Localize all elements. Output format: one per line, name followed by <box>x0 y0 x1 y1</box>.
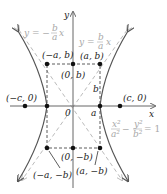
asymptote-label-positive: y = b a x <box>78 32 111 51</box>
point-neg-a-neg-b <box>45 146 50 151</box>
svg-text:a: a <box>98 41 103 51</box>
svg-text:x: x <box>106 37 111 47</box>
leader-a-neg-b <box>95 151 98 165</box>
point-a-neg-b <box>98 146 103 151</box>
svg-text:a²: a² <box>111 129 120 139</box>
asymptote-label-negative: y = − b a x <box>23 23 64 42</box>
label-segment-b: b <box>93 84 99 94</box>
point-zero-neg-b <box>71 146 76 151</box>
leader-neg-a-neg-b <box>49 151 60 168</box>
label-neg-c: (−c, 0) <box>6 93 38 103</box>
point-a <box>98 104 103 109</box>
label-a-b: (a, b) <box>80 51 104 61</box>
origin-label: 0 <box>65 108 71 118</box>
y-axis-label: y <box>63 10 70 20</box>
hyperbola-equation: x² a² − y² b² = 1 <box>111 119 160 139</box>
point-neg-a-b <box>45 62 50 67</box>
label-neg-a-neg-b: (−a, −b) <box>33 170 72 180</box>
label-zero-neg-b: (0, −b) <box>61 152 93 162</box>
svg-text:b²: b² <box>133 129 143 139</box>
svg-text:y²: y² <box>133 119 143 129</box>
svg-text:x: x <box>59 28 64 38</box>
point-zero-b <box>71 62 76 67</box>
point-c <box>118 104 123 109</box>
svg-text:y = −: y = − <box>23 28 50 38</box>
svg-text:y =: y = <box>78 37 95 47</box>
label-c: (c, 0) <box>123 93 147 103</box>
svg-text:−: − <box>122 124 130 134</box>
hyperbola-diagram: y x 0 y = − b a x y = b a x (−a, b) (a, … <box>0 0 167 194</box>
label-zero-b: (0, b) <box>61 70 86 80</box>
point-neg-c <box>23 104 28 109</box>
svg-text:= 1: = 1 <box>144 124 160 134</box>
label-neg-a-b: (−a, b) <box>42 50 74 60</box>
label-a-neg-b: (a, −b) <box>76 166 108 176</box>
x-axis-label: x <box>149 109 154 119</box>
label-segment-a: a <box>91 108 96 118</box>
point-neg-a <box>45 104 50 109</box>
svg-text:a: a <box>52 32 57 42</box>
point-a-b <box>98 62 103 67</box>
svg-text:x²: x² <box>112 119 121 129</box>
